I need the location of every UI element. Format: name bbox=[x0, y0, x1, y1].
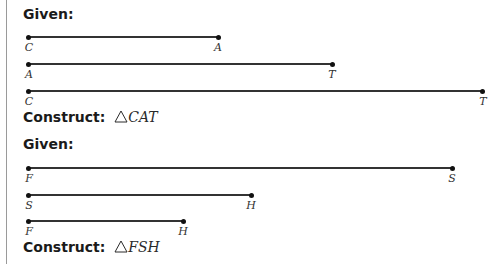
label-s: S bbox=[448, 173, 456, 185]
construct-label: Construct: bbox=[23, 239, 105, 255]
segment-line bbox=[28, 194, 251, 196]
point-s bbox=[450, 166, 455, 171]
triangle-icon bbox=[114, 110, 128, 123]
point-t bbox=[330, 62, 335, 67]
construct-heading-2: Construct: FSH bbox=[23, 239, 160, 255]
segment-line bbox=[28, 220, 183, 222]
point-f bbox=[26, 166, 31, 171]
construct-target-name: CAT bbox=[128, 109, 157, 125]
label-f: F bbox=[25, 226, 33, 238]
point-h bbox=[249, 193, 254, 198]
label-c: C bbox=[25, 96, 33, 108]
label-f: F bbox=[25, 173, 33, 185]
given-heading-1: Given: bbox=[23, 6, 73, 22]
point-c bbox=[26, 35, 31, 40]
label-a: A bbox=[25, 69, 33, 81]
construct-target: FSH bbox=[114, 239, 160, 255]
given-heading-2: Given: bbox=[23, 136, 73, 152]
construct-heading-1: Construct: CAT bbox=[23, 109, 158, 125]
construct-target-name: FSH bbox=[128, 239, 160, 255]
triangle-icon bbox=[114, 240, 128, 253]
segment-line bbox=[28, 63, 332, 65]
label-c: C bbox=[25, 42, 33, 54]
label-t: T bbox=[328, 69, 335, 81]
segment-line bbox=[28, 90, 482, 92]
point-f bbox=[26, 219, 31, 224]
construct-label: Construct: bbox=[23, 109, 105, 125]
construct-target: CAT bbox=[114, 109, 157, 125]
left-margin-rule bbox=[6, 0, 7, 264]
point-a bbox=[26, 62, 31, 67]
point-s bbox=[26, 193, 31, 198]
label-s: S bbox=[25, 200, 33, 212]
label-a: A bbox=[214, 42, 222, 54]
segment-line bbox=[28, 36, 218, 38]
point-c bbox=[26, 89, 31, 94]
label-h: H bbox=[246, 200, 256, 212]
segment-line bbox=[28, 167, 452, 169]
point-t bbox=[480, 89, 485, 94]
point-h bbox=[181, 219, 186, 224]
label-h: H bbox=[178, 226, 188, 238]
label-t: T bbox=[479, 96, 486, 108]
point-a bbox=[216, 35, 221, 40]
